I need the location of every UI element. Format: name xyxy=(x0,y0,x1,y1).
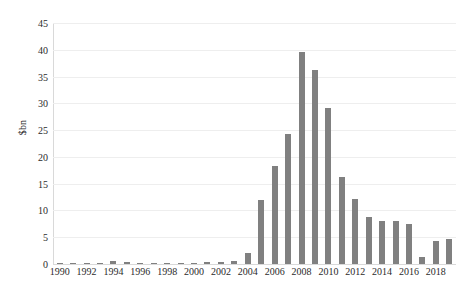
gridline xyxy=(53,50,456,51)
bar xyxy=(366,217,372,264)
y-tick-label: 15 xyxy=(38,178,48,189)
bar xyxy=(204,262,210,264)
bar xyxy=(191,263,197,264)
y-tick-label: 45 xyxy=(38,18,48,29)
gridline xyxy=(53,103,456,104)
x-tick-label: 1992 xyxy=(77,266,97,277)
bar xyxy=(339,177,345,264)
x-tick-label: 1990 xyxy=(50,266,70,277)
bar xyxy=(285,134,291,264)
x-tick-label: 2012 xyxy=(345,266,365,277)
bar xyxy=(231,261,237,264)
x-tick-label: 2000 xyxy=(184,266,204,277)
x-tick-label: 2008 xyxy=(292,266,312,277)
gridline xyxy=(53,23,456,24)
gridline xyxy=(53,184,456,185)
bar xyxy=(419,257,425,264)
bar xyxy=(124,262,130,264)
x-tick-label: 2004 xyxy=(238,266,258,277)
y-tick-label: 20 xyxy=(38,151,48,162)
x-tick-label: 1994 xyxy=(103,266,123,277)
bar xyxy=(299,52,305,264)
x-tick-label: 2014 xyxy=(372,266,392,277)
bar xyxy=(379,221,385,264)
bar xyxy=(272,166,278,264)
bar xyxy=(178,263,184,264)
bar xyxy=(433,241,439,264)
x-tick-label: 2016 xyxy=(399,266,419,277)
bar xyxy=(70,263,76,264)
y-tick-label: 5 xyxy=(43,232,48,243)
y-tick-label: 0 xyxy=(43,259,48,270)
gridline xyxy=(53,130,456,131)
x-tick-label: 1998 xyxy=(157,266,177,277)
bar-chart: $bn 051015202530354045 19901992199419961… xyxy=(0,0,459,298)
x-tick-label: 2002 xyxy=(211,266,231,277)
y-axis-title: $bn xyxy=(17,108,28,148)
gridline xyxy=(53,77,456,78)
bar xyxy=(97,263,103,264)
bar xyxy=(393,221,399,264)
bar xyxy=(164,263,170,264)
bar xyxy=(325,108,331,264)
bar xyxy=(446,239,452,264)
y-tick-label: 10 xyxy=(38,205,48,216)
bar xyxy=(352,199,358,264)
y-tick-label: 35 xyxy=(38,71,48,82)
y-tick-label: 30 xyxy=(38,98,48,109)
x-axis-ticks: 1990199219941996199820002002200420062008… xyxy=(53,266,456,286)
bar xyxy=(57,263,63,264)
x-tick-label: 2018 xyxy=(426,266,446,277)
bar xyxy=(137,263,143,264)
bar xyxy=(84,263,90,264)
gridline xyxy=(53,157,456,158)
bar xyxy=(110,261,116,264)
y-tick-label: 25 xyxy=(38,125,48,136)
bar xyxy=(218,262,224,264)
gridline xyxy=(53,264,456,265)
bar xyxy=(258,200,264,264)
y-tick-label: 40 xyxy=(38,44,48,55)
x-tick-label: 2010 xyxy=(318,266,338,277)
plot-area: 051015202530354045 xyxy=(53,23,456,264)
bar xyxy=(245,253,251,264)
x-tick-label: 1996 xyxy=(130,266,150,277)
bar xyxy=(312,70,318,264)
bar xyxy=(151,263,157,264)
gridline xyxy=(53,210,456,211)
x-tick-label: 2006 xyxy=(265,266,285,277)
bar xyxy=(406,224,412,264)
